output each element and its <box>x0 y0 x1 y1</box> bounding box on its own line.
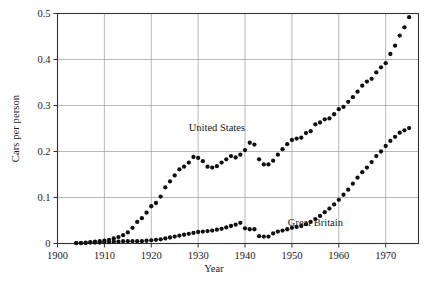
svg-text:0: 0 <box>45 238 50 249</box>
series-label-united-states: United States <box>189 122 245 133</box>
svg-text:1970: 1970 <box>375 250 396 261</box>
svg-text:0.3: 0.3 <box>37 100 50 111</box>
svg-text:1910: 1910 <box>94 250 115 261</box>
chart-plot-svg: 00.10.20.30.40.5190019101920193019401950… <box>0 0 428 285</box>
chart-figure: 00.10.20.30.40.5190019101920193019401950… <box>0 0 428 285</box>
svg-text:0.2: 0.2 <box>37 146 50 157</box>
svg-text:1900: 1900 <box>47 250 68 261</box>
svg-text:0.4: 0.4 <box>37 54 51 65</box>
svg-text:1950: 1950 <box>281 250 302 261</box>
series-annotations: United StatesGreat Britain <box>189 122 344 229</box>
svg-text:0.1: 0.1 <box>37 192 50 203</box>
svg-text:1960: 1960 <box>328 250 349 261</box>
svg-text:1940: 1940 <box>235 250 256 261</box>
x-axis-title: Year <box>0 263 428 274</box>
svg-text:1930: 1930 <box>188 250 209 261</box>
y-axis-title: Cars per person <box>10 74 21 184</box>
svg-text:0.5: 0.5 <box>37 8 50 19</box>
svg-text:1920: 1920 <box>141 250 162 261</box>
series-label-great-britain: Great Britain <box>288 217 344 228</box>
series-points-great-britain <box>74 126 411 245</box>
